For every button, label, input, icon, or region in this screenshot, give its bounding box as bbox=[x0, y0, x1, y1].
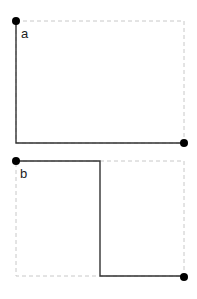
panel-b-start-dot bbox=[12, 157, 20, 165]
panel-a-end-dot bbox=[180, 139, 188, 147]
panel-b-label: b bbox=[20, 166, 27, 181]
panel-a-start-dot bbox=[12, 17, 20, 25]
panel-b: b bbox=[12, 157, 188, 281]
panel-a: a bbox=[12, 17, 188, 147]
panel-b-path bbox=[16, 161, 184, 276]
panel-a-dashed-box bbox=[16, 21, 184, 143]
panel-a-label: a bbox=[21, 26, 29, 41]
panel-b-end-dot bbox=[180, 273, 188, 281]
panel-a-path bbox=[16, 21, 184, 143]
diagram-canvas: a b bbox=[0, 0, 197, 299]
